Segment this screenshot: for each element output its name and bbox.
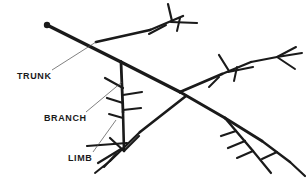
- limb-upper-left: [96, 4, 197, 42]
- trunk-base-dot: [44, 22, 50, 28]
- limb-right-lower: [221, 118, 271, 173]
- label-limb: LIMB: [68, 153, 92, 163]
- tree-drawing: [47, 4, 305, 176]
- limb-right-upper: [180, 55, 253, 92]
- label-trunk: TRUNK: [17, 71, 52, 81]
- label-branch: BRANCH: [44, 113, 87, 123]
- leader-line-branch: [86, 82, 122, 112]
- leader-line-trunk: [52, 42, 96, 70]
- limb-right-edge: [251, 47, 302, 69]
- limb-vertical: [105, 62, 142, 151]
- figure-canvas: TRUNK BRANCH LIMB: [0, 0, 306, 192]
- leader-line-limb: [93, 120, 116, 152]
- tree-diagram: TRUNK BRANCH LIMB: [0, 0, 306, 192]
- limb-far-right-lower: [262, 152, 277, 159]
